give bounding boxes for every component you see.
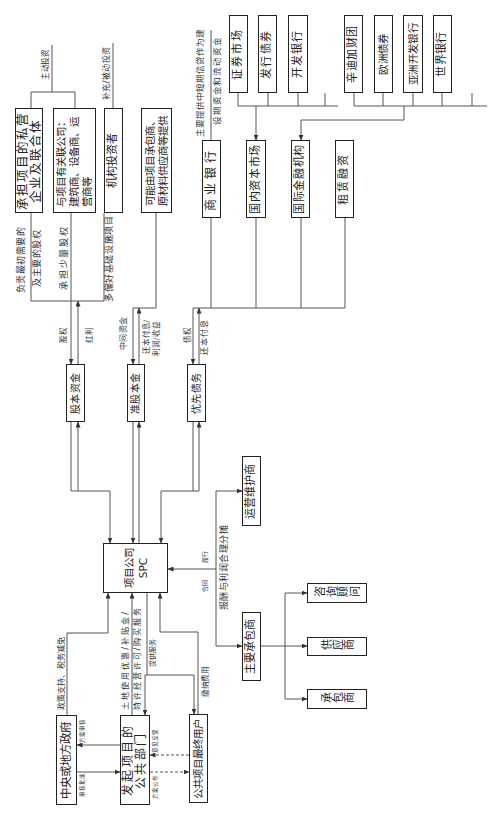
label-passive-investment: 补充/被动投资 bbox=[103, 47, 111, 100]
label-perform: 履行 bbox=[202, 551, 208, 563]
box-text: 发行债券 bbox=[261, 29, 274, 79]
box-text: 咨询顾问 bbox=[314, 587, 360, 600]
box-text: 公共项目最终用户 bbox=[192, 719, 204, 799]
label-scheme-publication: 方案公布 bbox=[153, 777, 159, 799]
box-om-operator: 运营维护商 bbox=[242, 456, 261, 526]
label-quasi-return-2: 利润/收益 bbox=[153, 322, 161, 356]
label-contract: 合同 bbox=[202, 580, 208, 592]
box-development-bank: 开发银行 bbox=[288, 15, 308, 93]
box-consultant: 咨询顾问 bbox=[307, 583, 367, 603]
box-text: 承包商 bbox=[321, 693, 354, 706]
box-text: 公共部门 bbox=[135, 731, 148, 789]
box-text: 供应商 bbox=[321, 640, 354, 653]
box-text: 国内资本市场 bbox=[250, 144, 263, 214]
label-feedback: 意见反馈 bbox=[153, 731, 159, 753]
box-domestic-capital-market: 国内资本市场 bbox=[246, 140, 266, 218]
box-end-users: 公共项目最终用户 bbox=[189, 714, 208, 803]
box-text: 项目公司 bbox=[122, 548, 136, 588]
box-contractor-supplier-provided: 可能由项目承包商、 原材料供应商等提供 bbox=[141, 108, 172, 213]
box-text: SPC bbox=[136, 558, 150, 578]
box-text: 优先债务 bbox=[191, 372, 203, 414]
connector-domestic-bus bbox=[238, 93, 338, 106]
box-spc: 项目公司 SPC bbox=[103, 543, 168, 593]
box-text: 可能由项目承包商、 bbox=[144, 116, 157, 206]
label-policy-support: 政策支持、税务减免 bbox=[58, 637, 66, 710]
box-text: 亚洲开发银行 bbox=[407, 23, 419, 85]
box-text: 租赁融资 bbox=[338, 153, 351, 205]
box-text: 开发银行 bbox=[292, 30, 305, 79]
label-concession-1: 土地使用优惠/补贴金/ bbox=[122, 612, 130, 710]
box-leasing-finance: 租赁融资 bbox=[335, 140, 354, 218]
label-dividend: 红利 bbox=[86, 328, 94, 343]
label-scheme-review: 方案审核 bbox=[80, 721, 86, 743]
box-text: 原材料供应商等提供 bbox=[157, 116, 170, 206]
label-concession-2: 特许经营许可/购买服务 bbox=[134, 608, 142, 710]
box-senior-debt: 优先债务 bbox=[187, 364, 206, 422]
label-active-investment: 主动投资 bbox=[42, 50, 50, 80]
box-equity-capital: 股本资金 bbox=[66, 364, 85, 422]
box-text: 与项目有关联公司： bbox=[55, 117, 68, 207]
box-commercial-bank: 商业银行 bbox=[202, 140, 221, 218]
box-text: 证券市场 bbox=[232, 28, 245, 79]
box-syndicate: 辛迪加财团 bbox=[344, 15, 363, 93]
arrow-debt-to-spc bbox=[161, 422, 193, 543]
label-minor-equity: 承担少量股权 bbox=[60, 227, 69, 290]
box-text: 运营维护商 bbox=[245, 464, 258, 519]
label-commercial-bank-note-2: 设期资金和流动资金 bbox=[213, 37, 222, 125]
box-adb: 亚洲开发银行 bbox=[403, 15, 423, 93]
box-intl-financial-institutions: 国际金融机构 bbox=[291, 140, 310, 218]
box-text: 世界银行 bbox=[436, 31, 449, 76]
box-text: 准股本金 bbox=[130, 372, 142, 414]
connector-international-bus bbox=[354, 93, 487, 106]
box-text: 中央或地方政府 bbox=[60, 722, 73, 799]
project-finance-structure-diagram: 承担项目的私营 企业及联合体 与项目有关联公司： 建筑商、设备商、运 营商等 机… bbox=[0, 0, 501, 816]
box-public-sponsor: 发起项目的 公共部门 bbox=[120, 715, 150, 805]
box-text: 股本资金 bbox=[70, 372, 82, 414]
label-infra-preference: 多偏好基础设施项目 bbox=[105, 216, 114, 302]
box-text: 主要承包商 bbox=[245, 619, 258, 674]
box-institutional-investors: 机构投资者 bbox=[104, 108, 123, 213]
box-text: 欧洲债券 bbox=[377, 33, 389, 74]
box-world-bank: 世界银行 bbox=[433, 15, 452, 93]
box-government: 中央或地方政府 bbox=[56, 715, 77, 805]
connector-investor-bracket bbox=[31, 92, 75, 108]
arrow-policy-support bbox=[67, 593, 108, 715]
label-initial-equity-1: 负责最初需要的 bbox=[17, 227, 26, 293]
box-text: 辛迪加财团 bbox=[347, 26, 360, 83]
connector-lender-drops bbox=[211, 218, 345, 308]
label-pay-fees: 缴纳费用 bbox=[202, 667, 210, 697]
box-securities-market: 证券市场 bbox=[229, 15, 248, 93]
box-text: 建筑商、设备商、运 bbox=[68, 117, 81, 207]
box-text: 国际金融机构 bbox=[294, 144, 307, 214]
label-approval: 审核批准 bbox=[80, 775, 86, 797]
label-mezzanine-funds: 中间资金 bbox=[120, 317, 128, 350]
box-text: 商业银行 bbox=[205, 147, 219, 211]
box-main-contractor: 主要承包商 bbox=[242, 612, 261, 681]
label-debt-service: 还本付息 bbox=[201, 320, 209, 355]
arrow-international-finance bbox=[301, 106, 404, 140]
box-text: 营商等 bbox=[81, 177, 94, 207]
box-text: 机构投资者 bbox=[107, 133, 120, 188]
label-creditor-rights: 债权 bbox=[184, 328, 192, 343]
box-quasi-equity: 准股本金 bbox=[127, 364, 145, 422]
box-bond-issuance: 发行债券 bbox=[258, 15, 277, 93]
box-supplier: 供应商 bbox=[307, 637, 367, 656]
box-contractor: 承包商 bbox=[307, 689, 367, 709]
box-text: 企业及联合体 bbox=[29, 119, 42, 203]
label-equity: 股权 bbox=[60, 328, 68, 343]
label-initial-equity-2: 及主要的股权 bbox=[33, 230, 42, 287]
box-related-companies: 与项目有关联公司： 建筑商、设备商、运 营商等 bbox=[53, 108, 96, 213]
box-eurobond: 欧洲债券 bbox=[374, 15, 393, 93]
box-private-consortium: 承担项目的私营 企业及联合体 bbox=[15, 108, 43, 213]
label-provide-services: 提供服务 bbox=[150, 639, 157, 667]
label-quasi-return-1: 还本付息/ bbox=[143, 320, 151, 354]
label-remuneration: 报酬与利润合理分摊 bbox=[220, 525, 229, 610]
arrow-pay-fees bbox=[160, 593, 198, 714]
arrow-equity-to-spc bbox=[71, 422, 110, 543]
label-commercial-bank-note-1: 主要提供中短期信贷作为建 bbox=[196, 33, 205, 137]
